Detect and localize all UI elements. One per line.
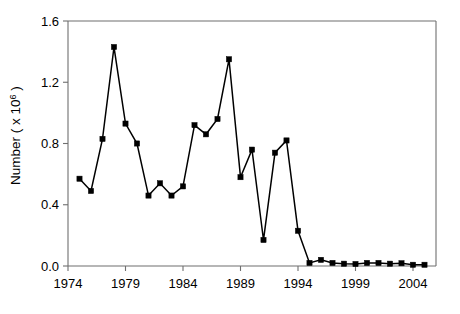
data-point-marker	[180, 184, 185, 189]
y-axis-title-close: )	[8, 86, 23, 94]
y-tick-label: 1.6	[41, 14, 59, 29]
data-point-marker	[238, 175, 243, 180]
data-point-marker	[295, 228, 300, 233]
data-point-marker	[422, 262, 427, 267]
x-tick-label: 1979	[111, 276, 140, 291]
data-point-marker	[284, 138, 289, 143]
plot-frame	[68, 21, 436, 266]
y-tick-label: 0.0	[41, 259, 59, 274]
data-point-marker	[203, 132, 208, 137]
data-point-marker	[353, 261, 358, 266]
data-point-marker	[226, 57, 231, 62]
series-line	[80, 47, 425, 265]
x-tick-label: 1984	[169, 276, 198, 291]
y-axis-title: Number ( x 106 )	[8, 86, 23, 185]
x-tick-label: 2004	[399, 276, 428, 291]
data-series	[77, 44, 427, 267]
x-axis-ticks	[68, 266, 413, 271]
chart-container: 0.00.40.81.21.6 197419791984198919941999…	[0, 0, 460, 314]
data-point-marker	[249, 147, 254, 152]
data-point-marker	[272, 150, 277, 155]
data-point-marker	[387, 261, 392, 266]
data-point-marker	[169, 193, 174, 198]
x-tick-label: 1974	[54, 276, 83, 291]
data-point-marker	[364, 260, 369, 265]
data-point-marker	[146, 193, 151, 198]
series-markers	[77, 44, 427, 267]
data-point-marker	[376, 260, 381, 265]
y-tick-label: 0.8	[41, 136, 59, 151]
x-axis-tick-labels: 1974197919841989199419992004	[54, 276, 428, 291]
data-point-marker	[399, 261, 404, 266]
data-point-marker	[134, 141, 139, 146]
data-point-marker	[318, 257, 323, 262]
y-tick-label: 0.4	[41, 197, 59, 212]
data-point-marker	[307, 260, 312, 265]
x-tick-label: 1989	[226, 276, 255, 291]
data-point-marker	[192, 123, 197, 128]
data-point-marker	[100, 136, 105, 141]
data-point-marker	[261, 237, 266, 242]
data-point-marker	[123, 121, 128, 126]
y-axis-ticks	[63, 21, 68, 266]
data-point-marker	[410, 262, 415, 267]
line-chart: 0.00.40.81.21.6 197419791984198919941999…	[0, 0, 460, 314]
y-tick-label: 1.2	[41, 75, 59, 90]
data-point-marker	[330, 260, 335, 265]
data-point-marker	[111, 44, 116, 49]
data-point-marker	[88, 188, 93, 193]
x-tick-label: 1999	[341, 276, 370, 291]
data-point-marker	[157, 181, 162, 186]
data-point-marker	[341, 261, 346, 266]
svg-text:Number ( x 106 ): Number ( x 106 )	[8, 86, 23, 185]
x-tick-label: 1994	[284, 276, 313, 291]
y-axis-tick-labels: 0.00.40.81.21.6	[41, 14, 59, 274]
data-point-marker	[215, 116, 220, 121]
y-axis-title-text: Number ( x 10	[8, 99, 23, 185]
data-point-marker	[77, 176, 82, 181]
